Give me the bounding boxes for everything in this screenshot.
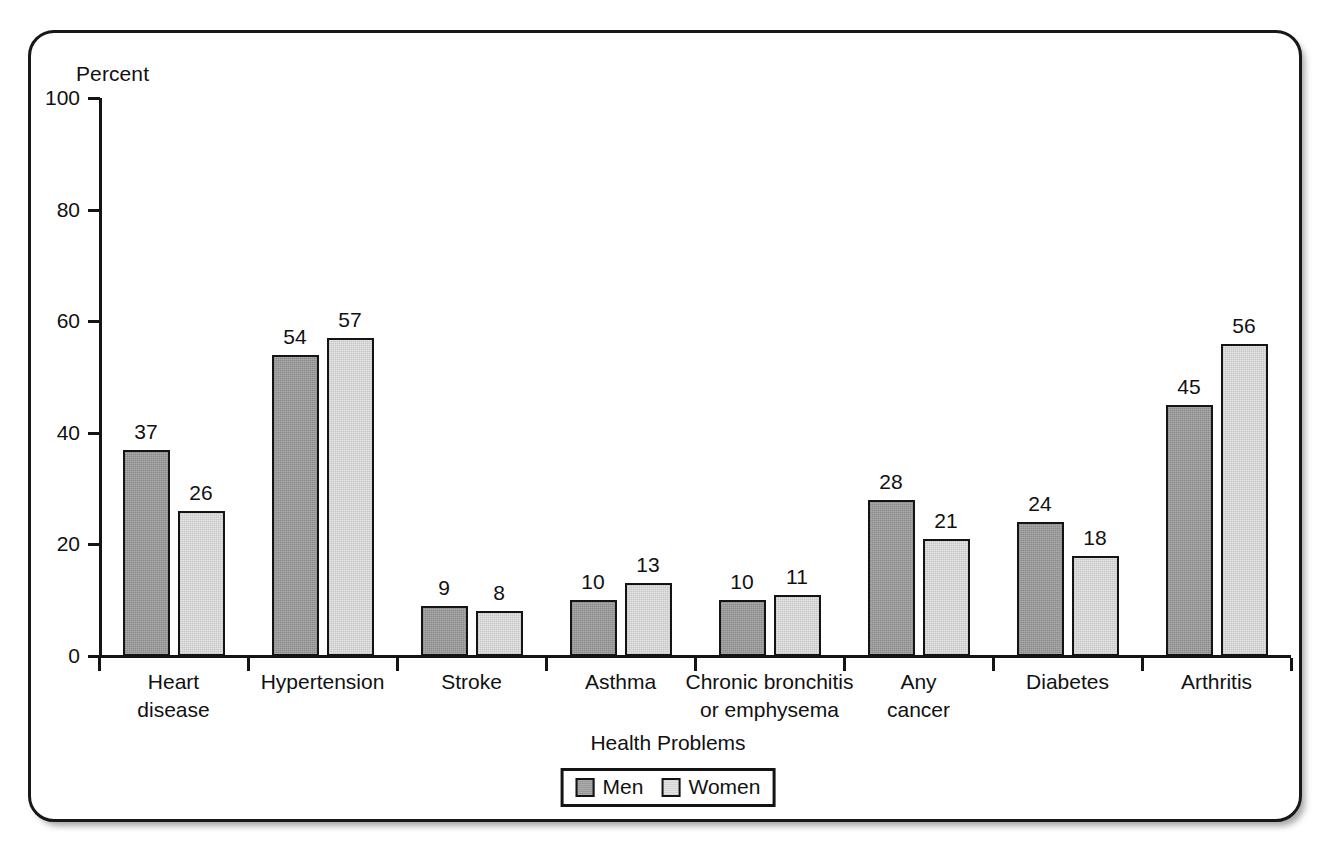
chart-frame	[28, 30, 1302, 822]
chart-page: Percent 020406080100 3726545798101310112…	[0, 0, 1336, 856]
